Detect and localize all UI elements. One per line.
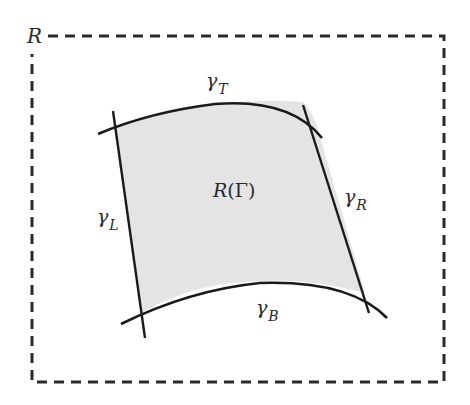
diagram-svg [0,0,470,405]
inner-region-fill [114,101,365,312]
gamma-left-symbol: γ [97,205,108,227]
gamma-bottom-subscript: B [268,308,278,324]
gamma-left-label: γL [97,207,119,226]
gamma-top-label: γT [206,71,228,90]
inner-region-label-close: ) [248,179,255,201]
gamma-right-symbol: γ [344,185,355,207]
gamma-bottom-label: γB [256,298,279,317]
gamma-top-symbol: γ [206,69,217,91]
gamma-right-subscript: R [356,197,367,213]
gamma-top-subscript: T [218,81,227,97]
inner-region-label-symbol: Γ [235,179,248,201]
gamma-left-subscript: L [109,217,118,233]
gamma-right-label: γR [344,187,367,206]
diagram-canvas: R R(Γ) γT γL γR γB [0,0,470,405]
inner-region-label-open: ( [227,179,234,201]
outer-region-label: R [27,26,42,46]
inner-region-label-main: R [213,179,227,201]
gamma-bottom-symbol: γ [256,296,267,318]
inner-region-label: R(Γ) [213,181,255,200]
